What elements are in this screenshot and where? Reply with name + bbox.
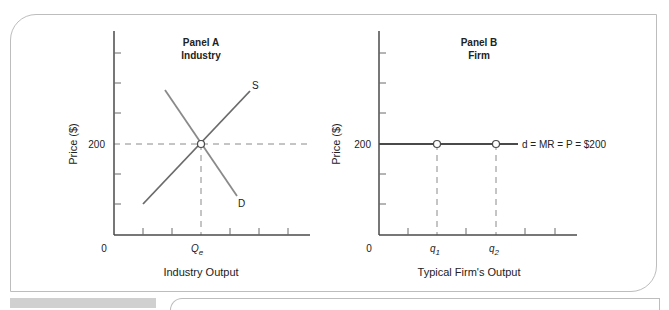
q1-point <box>434 141 441 148</box>
panel-b-title: Panel B <box>461 37 498 48</box>
panel-a-chart: Panel A Industry S D 200 0 Qe Industry O… <box>67 31 310 278</box>
equilibrium-point <box>198 141 205 148</box>
panel-a-origin-label: 0 <box>101 243 107 254</box>
panel-b-y-axis-label: Price ($) <box>330 123 342 165</box>
panel-a-x-axis-label: Industry Output <box>163 266 238 278</box>
panel-a-x-ticks <box>143 228 288 235</box>
qe-label: Qe <box>191 243 204 257</box>
panel-b-y-ticks <box>379 53 386 204</box>
demand-label: D <box>238 198 245 209</box>
supply-label: S <box>252 80 259 91</box>
panel-a-y-axis-label: Price ($) <box>67 123 79 165</box>
firm-demand-label: d = MR = P = $200 <box>522 139 606 150</box>
supply-curve <box>143 91 250 204</box>
panel-b-subtitle: Firm <box>468 50 490 61</box>
panel-b-x-ticks <box>408 228 555 235</box>
panel-a-price-200-label: 200 <box>88 139 105 150</box>
panel-a-title: Panel A <box>183 37 219 48</box>
panel-b-chart: Panel B Firm d = MR = P = $200 200 0 q1 … <box>330 31 606 278</box>
panel-b-origin-label: 0 <box>366 243 372 254</box>
panel-b-x-axis-label: Typical Firm's Output <box>418 266 521 278</box>
q1-label: q1 <box>430 243 440 257</box>
q2-point <box>493 141 500 148</box>
q2-label: q2 <box>489 243 500 257</box>
panel-a-subtitle: Industry <box>181 50 221 61</box>
panel-b-price-200-label: 200 <box>354 139 371 150</box>
panel-a-y-ticks <box>114 53 121 204</box>
